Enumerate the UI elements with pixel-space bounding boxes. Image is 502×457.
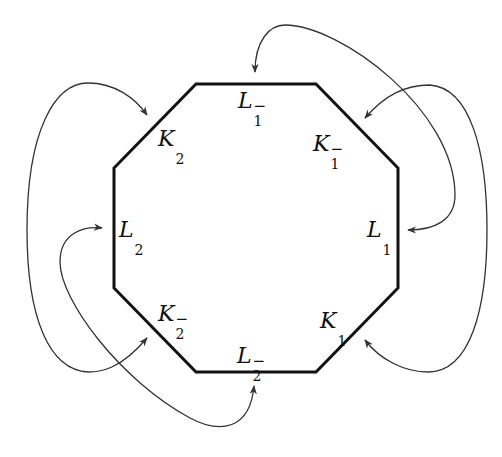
- label-l1: L1: [367, 219, 392, 241]
- arrow-l2-pair: [60, 228, 254, 427]
- label-k2-inverse: K−2: [158, 303, 184, 325]
- label-l1-inverse: L−1: [238, 90, 263, 112]
- diagram-graphics: [0, 0, 502, 457]
- arrow-l1-pair: [255, 25, 455, 230]
- label-k2: K2: [158, 128, 184, 150]
- label-l2-inverse: L−2: [237, 345, 262, 367]
- label-k1: K1: [320, 310, 346, 332]
- octagon-diagram: L−1 K−1 L1 K1 L−2 K−2 L2 K2: [0, 0, 502, 457]
- label-k1-inverse: K−1: [313, 133, 339, 155]
- label-l2: L2: [119, 219, 144, 241]
